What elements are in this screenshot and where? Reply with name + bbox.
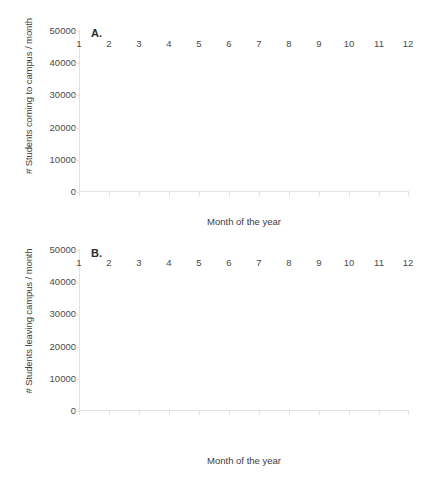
x-tick-mark: [289, 192, 290, 196]
y-tick-label: 0: [32, 187, 76, 197]
x-tick-mark: [199, 192, 200, 196]
y-tick-label: 20000: [32, 342, 76, 352]
plot-area-a: 1 2 3 4 5 6 7 8 9 10 11 12: [79, 31, 409, 192]
x-tick-mark: [259, 192, 260, 196]
x-tick-mark: [319, 192, 320, 196]
x-tick-mark: [139, 411, 140, 415]
y-tick-label: 40000: [32, 58, 76, 68]
y-tick-label: 30000: [32, 90, 76, 100]
x-tick-mark: [408, 411, 409, 415]
chart-panel-a: # Students coming to campus / month 5000…: [0, 0, 433, 238]
y-tick-label: 50000: [32, 245, 76, 255]
x-tick-mark: [199, 411, 200, 415]
plot-area-b: 1 2 3 4 5 6 7 8 9 10 11 12: [79, 250, 409, 411]
x-tick-mark: [408, 192, 409, 196]
panel-label-b: B.: [91, 247, 102, 259]
x-tick-mark: [79, 192, 80, 196]
x-tick-mark: [109, 192, 110, 196]
x-tick-mark: [139, 192, 140, 196]
data-series-layer-a: [79, 31, 409, 192]
y-tick-label: 30000: [32, 309, 76, 319]
y-tick-label: 10000: [32, 374, 76, 384]
figure-container: # Students coming to campus / month 5000…: [0, 0, 433, 478]
x-tick-mark: [379, 192, 380, 196]
x-tick-mark: [349, 411, 350, 415]
x-tick-mark: [319, 411, 320, 415]
x-tick-mark: [79, 411, 80, 415]
data-series-layer-b: [79, 250, 409, 411]
x-tick-mark: [229, 192, 230, 196]
y-tick-label: 40000: [32, 277, 76, 287]
y-tick-label: 50000: [32, 26, 76, 36]
y-tick-label: 20000: [32, 123, 76, 133]
y-tick-label: 0: [32, 406, 76, 416]
chart-panel-b: # Students leaving campus / month 50000 …: [0, 219, 433, 478]
x-tick-mark: [349, 192, 350, 196]
y-tick-label: 10000: [32, 155, 76, 165]
x-tick-mark: [259, 411, 260, 415]
x-tick-mark: [169, 411, 170, 415]
x-tick-mark: [169, 192, 170, 196]
panel-label-a: A.: [91, 27, 102, 39]
x-tick-mark: [379, 411, 380, 415]
y-axis-tick-labels: 50000 40000 30000 20000 10000 0: [32, 0, 76, 238]
x-tick-mark: [229, 411, 230, 415]
x-tick-mark: [109, 411, 110, 415]
x-tick-mark: [289, 411, 290, 415]
x-axis-title: Month of the year: [79, 455, 409, 467]
